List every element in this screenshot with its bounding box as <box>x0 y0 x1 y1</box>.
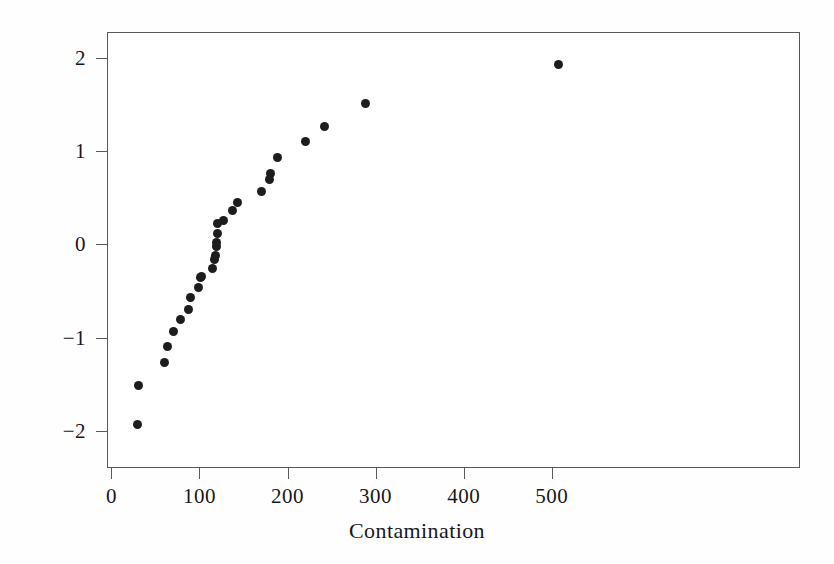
data-point <box>554 60 563 69</box>
y-tick-label: −1 <box>34 325 86 350</box>
data-point <box>184 305 193 314</box>
x-tick-label: 500 <box>535 484 568 509</box>
data-point <box>233 198 242 207</box>
data-point <box>160 358 169 367</box>
data-point <box>134 381 143 390</box>
data-point <box>320 122 329 131</box>
y-tick-mark <box>96 244 107 245</box>
data-point <box>301 137 310 146</box>
data-point <box>266 169 275 178</box>
x-axis-label: Contamination <box>0 518 834 544</box>
data-point <box>208 264 217 273</box>
y-tick-mark <box>96 431 107 432</box>
data-point <box>163 342 172 351</box>
x-tick-mark <box>199 468 200 479</box>
data-point <box>194 283 203 292</box>
x-tick-mark <box>111 468 112 479</box>
data-point <box>219 216 228 225</box>
data-point <box>211 251 220 260</box>
x-tick-label: 200 <box>271 484 304 509</box>
data-point <box>257 187 266 196</box>
qq-plot-figure: −2−1012 0100200300400500 Quantiles for s… <box>0 0 834 564</box>
data-point <box>273 153 282 162</box>
x-tick-label: 300 <box>359 484 392 509</box>
y-tick-label: 0 <box>34 232 86 257</box>
data-point <box>213 229 222 238</box>
y-tick-mark <box>96 58 107 59</box>
x-tick-mark <box>288 468 289 479</box>
x-tick-label: 100 <box>183 484 216 509</box>
x-tick-mark <box>552 468 553 479</box>
y-tick-label: −2 <box>34 418 86 443</box>
data-point <box>176 315 185 324</box>
data-point <box>197 272 206 281</box>
x-tick-mark <box>464 468 465 479</box>
y-tick-label: 2 <box>34 46 86 71</box>
data-point <box>212 238 221 247</box>
y-tick-label: 1 <box>34 139 86 164</box>
data-point <box>133 420 142 429</box>
x-tick-label: 0 <box>106 484 117 509</box>
data-point <box>228 206 237 215</box>
x-tick-label: 400 <box>447 484 480 509</box>
plot-data-area <box>107 32 800 468</box>
x-tick-mark <box>376 468 377 479</box>
y-tick-mark <box>96 338 107 339</box>
data-point <box>186 293 195 302</box>
data-point <box>169 327 178 336</box>
y-tick-mark <box>96 151 107 152</box>
data-point <box>361 99 370 108</box>
